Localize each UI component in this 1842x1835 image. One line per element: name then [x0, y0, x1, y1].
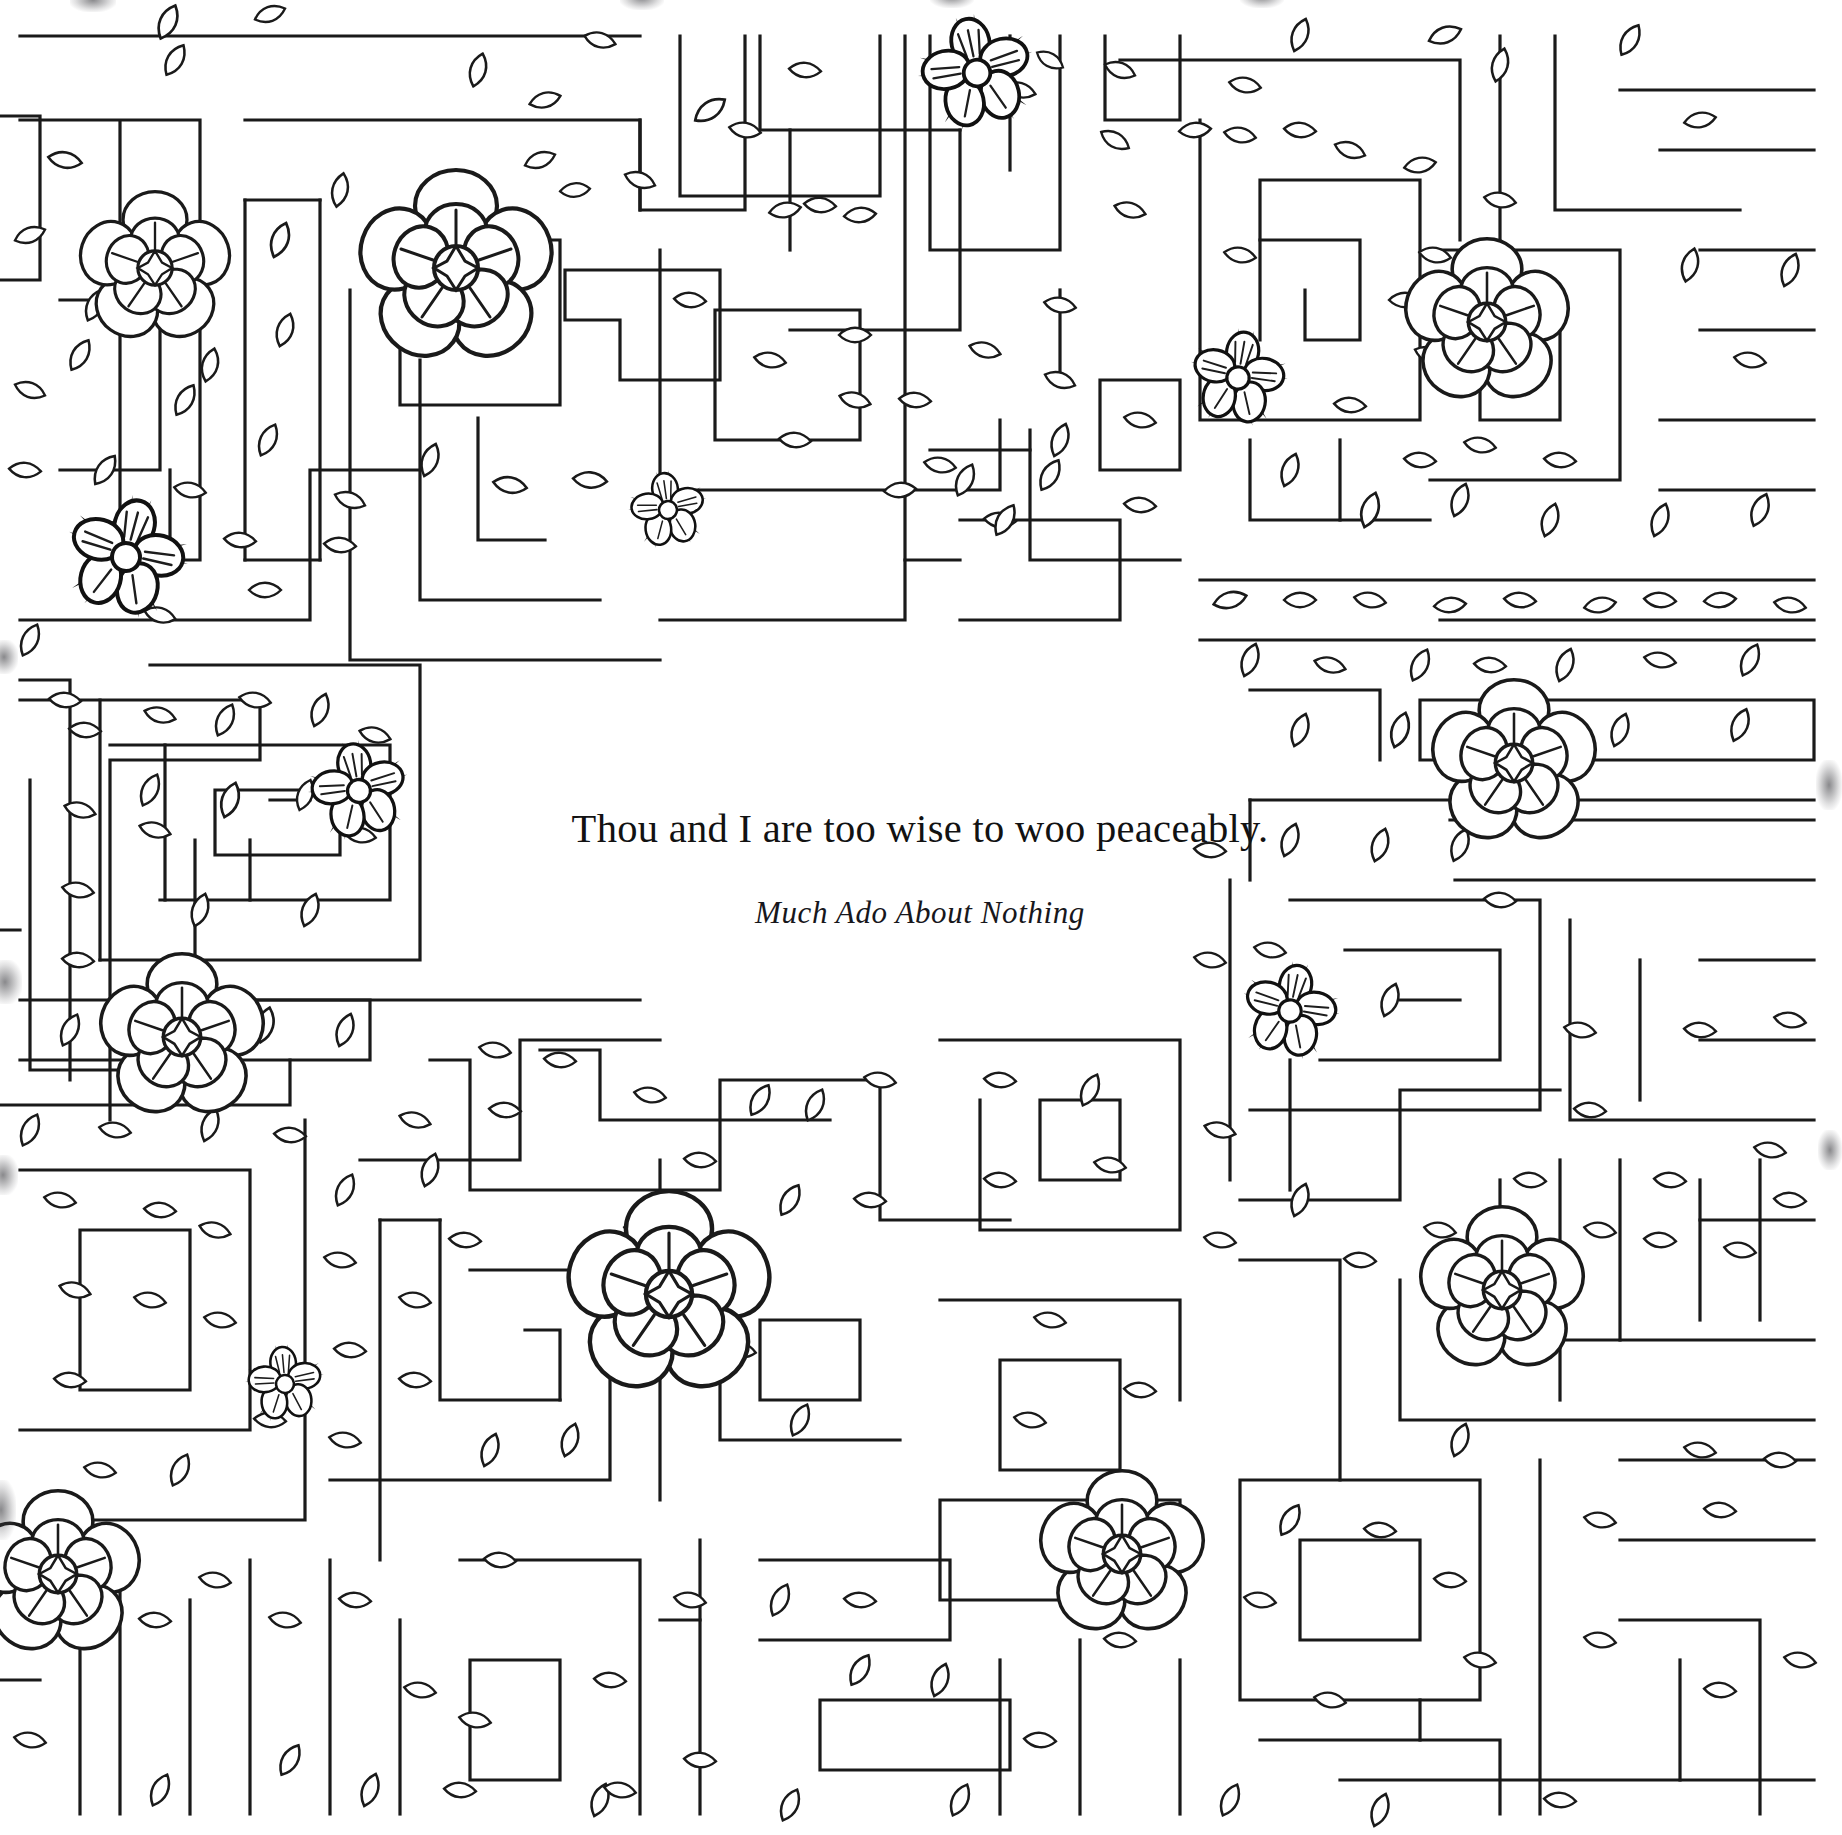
scan-smudge-top-d	[1240, 0, 1284, 8]
scan-smudge-right-a	[1816, 760, 1842, 810]
scan-smudge-left-a	[0, 640, 18, 674]
scan-smudge-top-b	[620, 0, 664, 10]
scan-smudge-left-d	[0, 1480, 16, 1540]
scan-smudge-top-a	[70, 0, 116, 12]
scan-smudge-top-c	[930, 0, 974, 8]
scan-smudge-left-c	[0, 1155, 18, 1195]
scan-smudge-right-b	[1818, 1130, 1842, 1170]
scan-smudge-left-b	[0, 960, 22, 1004]
